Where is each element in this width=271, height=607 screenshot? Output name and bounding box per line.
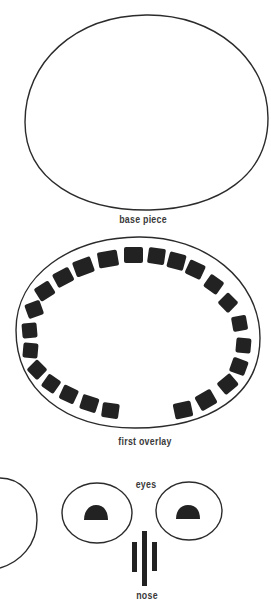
nose-bars [132, 531, 157, 586]
left-eye-pupil [84, 505, 108, 520]
first-overlay-outline [16, 237, 260, 428]
eyes-label: eyes [136, 479, 157, 490]
right-eye-pupil [176, 505, 200, 519]
first-overlay-label: first overlay [118, 436, 171, 447]
drawing-canvas [0, 0, 271, 607]
base-piece-outline [25, 15, 268, 210]
first-overlay-tiles [21, 247, 251, 420]
nose-label: nose [136, 590, 158, 601]
partial-circle-left [0, 478, 37, 568]
base-piece-label: base piece [119, 214, 167, 225]
